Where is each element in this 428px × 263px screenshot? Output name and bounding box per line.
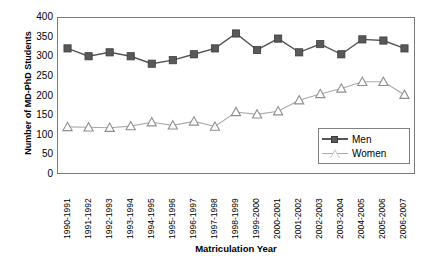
x-axis-tick-label: 1991-1992: [84, 179, 93, 239]
x-axis-tick-label: 1998-1999: [231, 179, 240, 239]
data-point-marker-triangle: [147, 118, 156, 126]
x-axis-tick-label: 2003-2004: [336, 179, 345, 239]
x-axis-tick-label: 2006-2007: [399, 179, 408, 239]
data-point-marker-square: [190, 51, 197, 58]
data-point-marker-square: [401, 45, 408, 52]
data-point-marker-square: [64, 45, 71, 52]
data-point-marker-square: [359, 36, 366, 43]
legend-label-women: Women: [348, 148, 386, 159]
data-point-marker-triangle: [231, 107, 240, 115]
y-axis-tick-label: 350: [20, 32, 53, 42]
men-series-marker-icon: [322, 133, 348, 145]
legend-label-men: Men: [348, 134, 371, 145]
x-axis-tick-label: 2004-2005: [357, 179, 366, 239]
x-axis-tick-label: 1993-1994: [126, 179, 135, 239]
x-axis-tick-labels: 1990-19911991-19921992-19931993-19941994…: [57, 177, 415, 239]
legend-item-women: Women: [322, 146, 405, 160]
x-axis-tick-label: 1997-1998: [210, 179, 219, 239]
data-point-marker-triangle: [189, 117, 198, 125]
women-series-marker-icon: [322, 147, 348, 159]
y-axis-tick-label: 50: [20, 149, 53, 159]
x-axis-tick-label: 2001-2002: [294, 179, 303, 239]
md-phd-students-line-chart: Number of MD-PhD Students 40035030025020…: [0, 0, 428, 263]
data-point-marker-triangle: [274, 107, 283, 115]
y-axis-tick-label: 250: [20, 71, 53, 81]
legend-item-men: Men: [322, 132, 405, 146]
y-axis-tick-label: 150: [20, 110, 53, 120]
y-axis-tick-labels: 400350300250200150100500: [20, 0, 53, 263]
data-point-marker-square: [296, 49, 303, 56]
data-point-marker-square: [127, 53, 134, 60]
x-axis-title: Matriculation Year: [57, 243, 415, 254]
data-point-marker-square: [317, 40, 324, 47]
series-line: [68, 82, 405, 128]
y-axis-tick-label: 200: [20, 91, 53, 101]
data-point-marker-square: [253, 46, 260, 53]
y-axis-tick-label: 0: [20, 169, 53, 179]
x-axis-tick-label: 1996-1997: [189, 179, 198, 239]
x-axis-tick-label: 1990-1991: [63, 179, 72, 239]
data-point-marker-square: [148, 60, 155, 67]
x-axis-tick-label: 2005-2006: [378, 179, 387, 239]
x-axis-tick-label: 1995-1996: [168, 179, 177, 239]
data-point-marker-square: [275, 35, 282, 42]
x-axis-tick-label: 1999-2000: [252, 179, 261, 239]
data-point-marker-square: [338, 51, 345, 58]
chart-legend: Men Women: [318, 128, 410, 164]
x-axis-tick-label: 1994-1995: [147, 179, 156, 239]
x-axis-tick-label: 2000-2001: [273, 179, 282, 239]
series-line: [68, 33, 405, 63]
series-men: [64, 30, 408, 67]
y-axis-tick-label: 300: [20, 51, 53, 61]
x-axis-tick-label: 2002-2003: [315, 179, 324, 239]
data-point-marker-square: [380, 37, 387, 44]
data-point-marker-square: [106, 49, 113, 56]
x-axis-tick-label: 1992-1993: [105, 179, 114, 239]
data-point-marker-square: [211, 45, 218, 52]
data-point-marker-square: [169, 57, 176, 64]
data-point-marker-triangle: [400, 90, 409, 98]
y-axis-tick-label: 100: [20, 130, 53, 140]
series-women: [63, 77, 409, 131]
y-axis-tick-label: 400: [20, 12, 53, 22]
data-point-marker-square: [232, 30, 239, 37]
data-point-marker-square: [85, 53, 92, 60]
